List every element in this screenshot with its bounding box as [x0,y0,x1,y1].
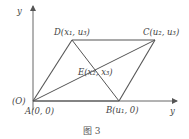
point-d-label: D(x₁, u₃) [53,27,90,37]
parallelogram-diagram: y y (O) A(0, 0) B(u₁, 0) C(u₂, u₃) D(x₁,… [0,0,189,139]
point-c-label: C(u₂, u₃) [143,27,179,37]
origin-label: (O) [12,96,26,106]
y-axis-label: y [16,6,22,16]
point-e-label: E(x₂, x₃) [77,67,113,77]
figure-caption: 图 3 [83,126,101,136]
x-axis-label: y [169,106,175,116]
edge-ad [33,40,72,101]
point-a-label: A(0, 0) [24,106,54,116]
point-b-label: B(u₁, 0) [105,105,139,115]
